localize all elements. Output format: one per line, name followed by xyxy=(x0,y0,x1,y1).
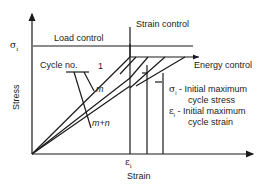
cycle-no-label: Cycle no. xyxy=(40,60,78,70)
y-tick-sigma-i: σi xyxy=(10,40,18,54)
cycle-m-label: m xyxy=(96,84,104,94)
strain-control-label: Strain control xyxy=(136,19,189,29)
cycle-1-label: 1 xyxy=(98,61,103,71)
energy-control-label: Energy control xyxy=(194,60,252,70)
x-tick-epsilon-i: εi xyxy=(125,157,132,171)
legend-epsilon-line2: cycle strain xyxy=(188,117,233,127)
title-cut: ... xyxy=(148,0,156,2)
load-control-label: Load control xyxy=(54,33,104,43)
legend-sigma-line2: cycle stress xyxy=(188,95,235,105)
cycle-mn-label: m+n xyxy=(92,118,110,128)
y-axis-label: Stress xyxy=(11,84,21,110)
x-axis-label: Strain xyxy=(127,171,151,181)
